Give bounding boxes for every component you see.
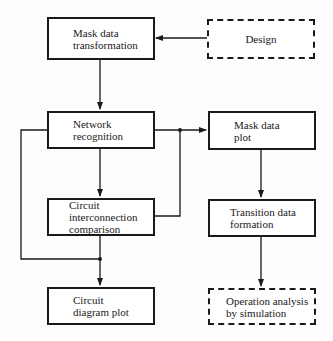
- node-label: Network recognition: [49, 118, 123, 142]
- node-circuit-diagram-plot: Circuit diagram plot: [47, 287, 155, 325]
- node-label: Design: [245, 33, 276, 45]
- node-circuit-interconnection-comparison: Circuit interconnection comparison: [47, 198, 155, 236]
- node-label: Mask data transformation: [49, 27, 138, 51]
- node-mask-data-plot: Mask data plot: [208, 111, 316, 150]
- flow-diagram: Mask data transformation Design Network …: [0, 0, 333, 341]
- node-label: Circuit diagram plot: [49, 294, 129, 318]
- edge-network-to-diagram-plot: [21, 130, 100, 259]
- node-network-recognition: Network recognition: [47, 111, 155, 149]
- node-label: Circuit interconnection comparison: [49, 199, 137, 235]
- junction-dot: [98, 257, 102, 261]
- node-transition-data-formation: Transition data formation: [208, 199, 316, 237]
- node-label: Mask data plot: [210, 119, 280, 143]
- node-mask-data-transformation: Mask data transformation: [47, 17, 155, 60]
- junction-dot: [178, 128, 182, 132]
- node-label: Operation analysis by simulation: [210, 295, 308, 319]
- node-design: Design: [207, 19, 315, 59]
- node-label: Transition data formation: [210, 206, 296, 230]
- node-operation-analysis-by-simulation: Operation analysis by simulation: [208, 288, 316, 325]
- edge-comparison-to-mask-plot: [154, 130, 180, 216]
